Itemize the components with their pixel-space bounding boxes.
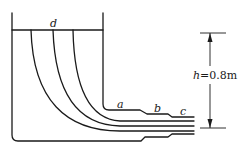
arrow-up-icon xyxy=(208,33,213,42)
label-a: a xyxy=(117,98,124,111)
label-c: c xyxy=(180,105,186,118)
streamline-1 xyxy=(73,30,194,121)
label-head-value: =0.8m xyxy=(200,69,238,82)
label-b: b xyxy=(154,102,161,115)
label-head-var: h xyxy=(193,69,200,82)
diagram-canvas: d a b c h=0.8m xyxy=(0,0,242,153)
label-d: d xyxy=(50,17,57,30)
label-head: h=0.8m xyxy=(193,69,238,82)
arrow-down-icon xyxy=(208,119,213,128)
